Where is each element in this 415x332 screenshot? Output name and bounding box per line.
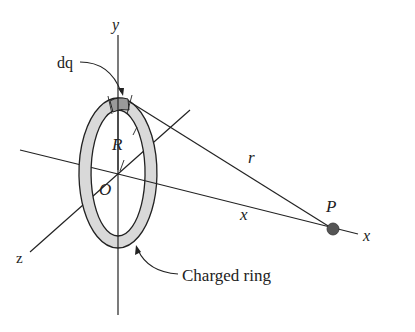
z-axis-label: z (16, 250, 23, 266)
y-axis-label: y (110, 16, 120, 34)
charged-ring-diagram: y dq R O z r x P x Charged ring (0, 0, 415, 332)
origin-label: O (99, 180, 111, 199)
x-axis-label: x (362, 227, 370, 244)
ring-leader (135, 245, 178, 274)
p-label: P (325, 197, 336, 216)
x-axis-left (20, 150, 118, 174)
x-distance-label: x (239, 205, 248, 224)
dq-label: dq (57, 54, 73, 72)
r-line (130, 102, 333, 229)
ring-label: Charged ring (182, 266, 271, 285)
radius-label: R (111, 135, 123, 154)
r-label: r (248, 148, 255, 167)
point-p (327, 223, 339, 235)
